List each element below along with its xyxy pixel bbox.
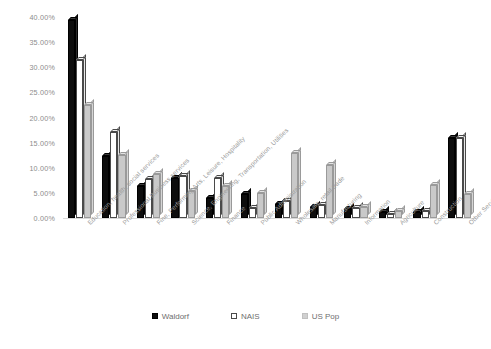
bar-front-face — [318, 205, 325, 218]
bar-nais — [456, 138, 463, 218]
x-axis-category-label: Manufacturing — [328, 221, 333, 226]
x-axis-category-label: Other Services — [467, 221, 472, 226]
legend-label: US Pop — [312, 312, 340, 321]
legend-label: NAIS — [241, 312, 260, 321]
bar-nais — [249, 208, 256, 218]
legend-label: Waldorf — [162, 312, 189, 321]
y-axis-tick-label: 30.00% — [29, 63, 55, 72]
x-axis-category-label: Wholesale, retail trade — [294, 221, 299, 226]
x-axis-category-label: Professional Business services — [121, 221, 126, 226]
bar-nais — [352, 208, 359, 218]
legend-swatch-icon — [231, 313, 237, 319]
legend-item-waldorf[interactable]: Waldorf — [152, 312, 189, 321]
bar-front-face — [464, 194, 471, 218]
bar-us-pop — [257, 193, 264, 218]
bar-front-face — [257, 193, 264, 218]
bar-front-face — [456, 138, 463, 218]
bar-front-face — [352, 208, 359, 218]
x-axis-category-label: Public Administration — [259, 221, 264, 226]
x-axis-category-label: Agriculture — [398, 221, 403, 226]
bar-front-face — [76, 60, 83, 218]
bar-nais — [318, 205, 325, 218]
bar-nais — [422, 211, 429, 218]
legend-swatch-icon — [152, 313, 158, 319]
bar-front-face — [387, 214, 394, 218]
bar-front-face — [68, 20, 75, 218]
y-axis-tick-label: 25.00% — [29, 88, 55, 97]
bar-group — [448, 17, 471, 218]
y-axis-tick-label: 15.00% — [29, 138, 55, 147]
y-axis-tick-label: 40.00% — [29, 13, 55, 22]
bar-group — [413, 17, 436, 218]
chart-legend: WaldorfNAISUS Pop — [0, 306, 491, 326]
bar-front-face — [84, 105, 91, 218]
bar-group — [68, 17, 91, 218]
legend-item-nais[interactable]: NAIS — [231, 312, 260, 321]
x-axis-category-label: Education, health, social services — [86, 221, 91, 226]
y-axis-tick-label: 5.00% — [34, 188, 55, 197]
bar-front-face — [422, 211, 429, 218]
x-axis-category-label: Science, Engineering, Transportation, Ut… — [190, 221, 195, 226]
bar-group — [241, 17, 264, 218]
x-axis-labels: Education, health, social servicesProfes… — [0, 219, 491, 309]
bar-nais — [76, 60, 83, 218]
x-axis-category-label: Construction — [432, 221, 437, 226]
bar-group — [379, 17, 402, 218]
legend-swatch-icon — [302, 313, 308, 319]
bar-us-pop — [430, 185, 437, 218]
bar-chart: 0.00%5.00%10.00%15.00%20.00%25.00%30.00%… — [0, 0, 491, 349]
bar-front-face — [249, 208, 256, 218]
bar-side-face — [160, 168, 163, 215]
bar-nais — [387, 214, 394, 218]
x-axis-category-label: Finance — [225, 221, 230, 226]
bar-side-face — [91, 99, 94, 215]
y-axis-tick-label: 20.00% — [29, 113, 55, 122]
y-axis: 0.00%5.00%10.00%15.00%20.00%25.00%30.00%… — [0, 0, 63, 240]
bar-group — [344, 17, 367, 218]
y-axis-tick-label: 35.00% — [29, 38, 55, 47]
bar-us-pop — [84, 105, 91, 218]
legend-item-us-pop[interactable]: US Pop — [302, 312, 340, 321]
y-axis-tick-label: 10.00% — [29, 163, 55, 172]
bar-us-pop — [464, 194, 471, 218]
x-axis-category-label: Information — [363, 221, 368, 226]
bar-front-face — [430, 185, 437, 218]
bar-waldorf — [68, 20, 75, 218]
x-axis-category-label: Fine, Performing Arts, Leisure, Hospital… — [155, 221, 160, 226]
